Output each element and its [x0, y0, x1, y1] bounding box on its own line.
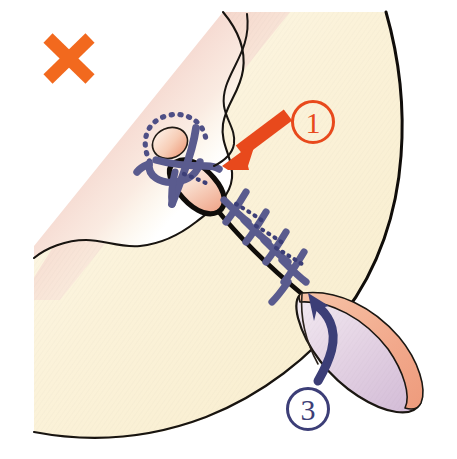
surgical-illustration: 1 3: [0, 0, 457, 459]
callout-1-label: 1: [306, 106, 321, 139]
callout-3: 3: [288, 389, 329, 430]
callout-3-label: 3: [301, 393, 316, 426]
figure-root: 1 3: [0, 0, 457, 459]
x-mark: [48, 38, 90, 79]
suture-knot-free-end: [172, 172, 175, 204]
